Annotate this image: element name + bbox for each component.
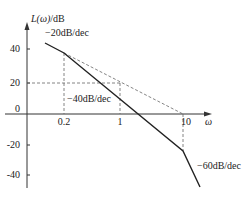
y-tick-0: 0 (15, 103, 20, 114)
slope-label-60: −60dB/dec (197, 160, 242, 171)
y-axis-arrow-icon (25, 22, 30, 30)
slope-label-20: −20dB/dec (45, 27, 90, 38)
y-tick-20: 20 (10, 77, 20, 88)
y-tick-neg40: -40 (7, 169, 20, 180)
axes (5, 22, 212, 188)
y-tick-neg20: -20 (7, 139, 20, 150)
x-tick-0.2: 0.2 (58, 116, 71, 127)
magnitude-curve (45, 43, 200, 187)
x-tick-10: 10 (181, 116, 191, 127)
x-tick-1: 1 (118, 116, 123, 127)
x-axis-label: ω (205, 116, 212, 127)
bode-plot: L(ω)/dB 40 20 0 -20 -40 0.2 1 10 ω −20dB… (0, 0, 248, 197)
y-axis-label: L(ω)/dB (30, 13, 65, 25)
y-tick-40: 40 (10, 43, 20, 54)
slope-label-40: −40dB/dec (67, 93, 112, 104)
